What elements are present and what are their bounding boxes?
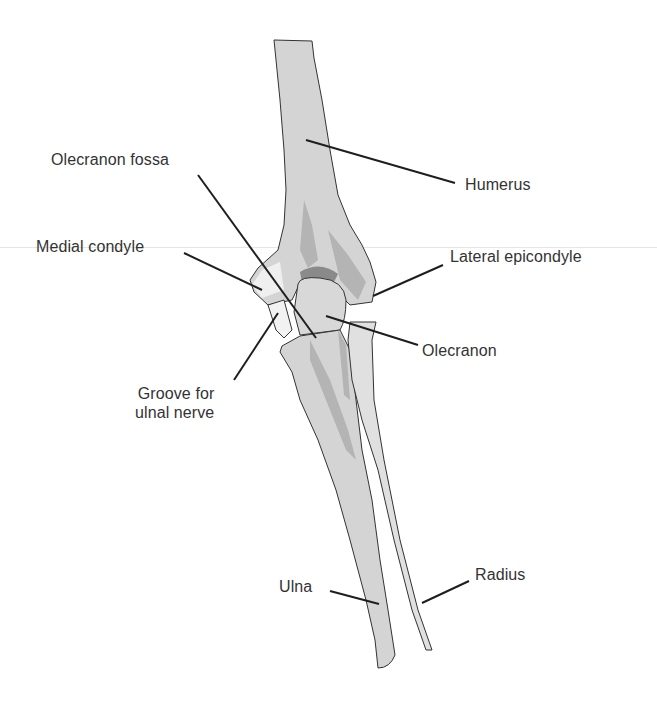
- leader-lateral-epicondyle: [373, 265, 443, 296]
- leader-groove: [234, 313, 278, 380]
- label-olecranon-fossa: Olecranon fossa: [51, 151, 169, 169]
- label-lateral-epicondyle: Lateral epicondyle: [450, 248, 582, 266]
- label-groove-for-ulnal-nerve: Groove for ulnal nerve: [135, 384, 214, 422]
- leader-medial-condyle: [184, 253, 262, 290]
- humerus-bone: [250, 40, 376, 305]
- elbow-anatomy-diagram: Olecranon fossa Humerus Medial condyle L…: [0, 0, 657, 705]
- label-humerus: Humerus: [465, 176, 531, 194]
- leader-radius: [422, 581, 469, 603]
- label-medial-condyle: Medial condyle: [36, 238, 144, 256]
- ulna-bone: [280, 330, 395, 668]
- label-olecranon: Olecranon: [422, 342, 497, 360]
- label-radius: Radius: [475, 566, 525, 584]
- label-ulna: Ulna: [279, 578, 312, 596]
- groove-region: [268, 300, 292, 338]
- bone-illustration: [0, 0, 657, 705]
- olecranon-process: [294, 278, 346, 335]
